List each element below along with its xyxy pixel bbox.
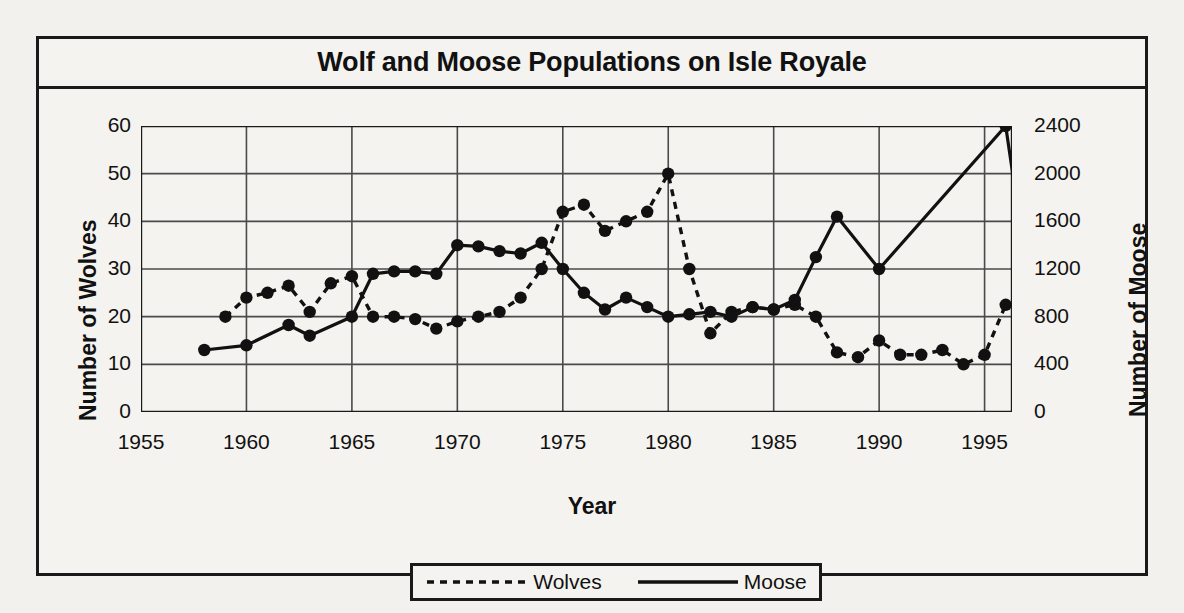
data-point-wolves	[451, 315, 463, 327]
legend-swatch-dashed-icon	[425, 575, 529, 589]
y-tick-label-right: 400	[1034, 351, 1104, 375]
x-tick-label: 1985	[739, 430, 809, 454]
data-point-wolves	[978, 349, 990, 361]
data-point-wolves	[346, 270, 358, 282]
data-point-moose	[831, 210, 843, 222]
y-tick-label-left: 40	[79, 208, 131, 232]
series-layer	[198, 126, 1012, 371]
data-point-wolves	[325, 277, 337, 289]
data-point-wolves	[641, 206, 653, 218]
y-tick-label-right: 2400	[1034, 113, 1104, 137]
data-point-wolves	[430, 322, 442, 334]
data-point-wolves	[810, 311, 822, 323]
x-tick-label: 1995	[950, 430, 1020, 454]
data-point-moose	[240, 339, 252, 351]
data-point-wolves	[852, 351, 864, 363]
y-tick-label-left: 20	[79, 304, 131, 328]
y-tick-label-right: 1200	[1034, 256, 1104, 280]
plot-area: 0102030405060040080012001600200024001955…	[141, 126, 1012, 412]
title-band: Wolf and Moose Populations on Isle Royal…	[39, 39, 1145, 89]
data-point-wolves	[557, 206, 569, 218]
data-point-moose	[599, 303, 611, 315]
legend-swatch-solid-icon	[636, 575, 740, 589]
data-point-wolves	[261, 287, 273, 299]
page-title: Wolf and Moose Populations on Isle Royal…	[317, 47, 866, 78]
data-point-wolves	[873, 334, 885, 346]
data-point-moose	[746, 301, 758, 313]
data-point-moose	[409, 265, 421, 277]
data-point-moose	[304, 330, 316, 342]
x-axis-title: Year	[39, 493, 1145, 520]
data-point-moose	[451, 239, 463, 251]
data-point-wolves	[1000, 299, 1012, 311]
x-tick-label: 1965	[317, 430, 387, 454]
y-tick-label-right: 0	[1034, 399, 1104, 423]
y-tick-label-left: 30	[79, 256, 131, 280]
data-point-wolves	[472, 311, 484, 323]
y-axis-right-title: Number of Moose	[1125, 223, 1152, 417]
data-point-wolves	[831, 346, 843, 358]
y-tick-label-left: 50	[79, 161, 131, 185]
y-tick-label-right: 2000	[1034, 161, 1104, 185]
data-point-wolves	[894, 349, 906, 361]
x-tick-label: 1990	[844, 430, 914, 454]
data-point-moose	[768, 303, 780, 315]
y-tick-label-right: 1600	[1034, 208, 1104, 232]
data-point-wolves	[915, 349, 927, 361]
data-point-wolves	[409, 313, 421, 325]
y-tick-label-right: 800	[1034, 304, 1104, 328]
data-point-moose	[810, 251, 822, 263]
data-point-wolves	[240, 291, 252, 303]
data-point-moose	[683, 308, 695, 320]
y-tick-label-left: 0	[79, 399, 131, 423]
data-point-wolves	[662, 168, 674, 180]
data-point-wolves	[578, 199, 590, 211]
data-point-wolves	[704, 327, 716, 339]
data-point-moose	[557, 263, 569, 275]
data-point-wolves	[219, 311, 231, 323]
legend-label: Moose	[744, 570, 807, 594]
data-point-wolves	[282, 280, 294, 292]
data-point-wolves	[388, 311, 400, 323]
x-tick-label: 1960	[211, 430, 281, 454]
data-point-moose	[282, 319, 294, 331]
chart-svg	[141, 126, 1012, 412]
data-point-moose	[367, 268, 379, 280]
data-point-wolves	[536, 263, 548, 275]
x-tick-label: 1980	[633, 430, 703, 454]
data-point-moose	[472, 240, 484, 252]
data-point-moose	[578, 287, 590, 299]
data-point-moose	[620, 291, 632, 303]
chart-page: Wolf and Moose Populations on Isle Royal…	[0, 0, 1184, 613]
data-point-wolves	[514, 291, 526, 303]
data-point-moose	[662, 311, 674, 323]
data-point-wolves	[620, 215, 632, 227]
data-point-moose	[704, 306, 716, 318]
y-tick-label-left: 10	[79, 351, 131, 375]
legend-label: Wolves	[533, 570, 601, 594]
data-point-moose	[493, 245, 505, 257]
data-point-wolves	[683, 263, 695, 275]
data-point-wolves	[957, 358, 969, 370]
data-point-moose	[641, 301, 653, 313]
chart-legend: WolvesMoose	[410, 563, 822, 601]
data-point-wolves	[493, 306, 505, 318]
data-point-wolves	[936, 344, 948, 356]
data-point-wolves	[304, 306, 316, 318]
data-point-wolves	[367, 311, 379, 323]
y-tick-label-left: 60	[79, 113, 131, 137]
data-point-moose	[725, 311, 737, 323]
data-point-moose	[789, 294, 801, 306]
data-point-moose	[198, 344, 210, 356]
figure-frame: Wolf and Moose Populations on Isle Royal…	[36, 36, 1148, 576]
x-tick-label: 1970	[422, 430, 492, 454]
data-point-moose	[536, 237, 548, 249]
data-point-moose	[346, 311, 358, 323]
data-point-moose	[430, 268, 442, 280]
legend-item-wolves[interactable]: Wolves	[425, 570, 601, 594]
data-point-wolves	[599, 225, 611, 237]
data-point-moose	[514, 247, 526, 259]
data-point-moose	[388, 265, 400, 277]
x-tick-label: 1955	[106, 430, 176, 454]
legend-item-moose[interactable]: Moose	[636, 570, 807, 594]
